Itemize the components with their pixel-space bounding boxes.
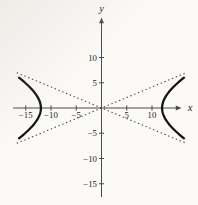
y-axis-arrowhead-icon bbox=[99, 18, 104, 24]
y-tick-label: −10 bbox=[83, 154, 97, 164]
x-tick-label: −10 bbox=[44, 110, 58, 120]
y-tick-label: −5 bbox=[88, 128, 98, 138]
x-axis-label: x bbox=[187, 102, 193, 113]
y-tick-label: −15 bbox=[83, 179, 97, 189]
x-tick-label: −15 bbox=[19, 110, 33, 120]
x-tick-label: 5 bbox=[125, 110, 130, 120]
x-axis-arrowhead-icon bbox=[176, 106, 182, 111]
y-tick-label: 5 bbox=[93, 78, 98, 88]
y-tick-label: 10 bbox=[88, 53, 97, 63]
x-tick-label: 10 bbox=[148, 110, 157, 120]
hyperbola-figure: −15−10−5510105−5−10−15xy bbox=[0, 0, 198, 205]
x-tick-label: −5 bbox=[72, 110, 82, 120]
y-axis-label: y bbox=[98, 3, 104, 14]
hyperbola-chart: −15−10−5510105−5−10−15xy bbox=[0, 0, 198, 205]
